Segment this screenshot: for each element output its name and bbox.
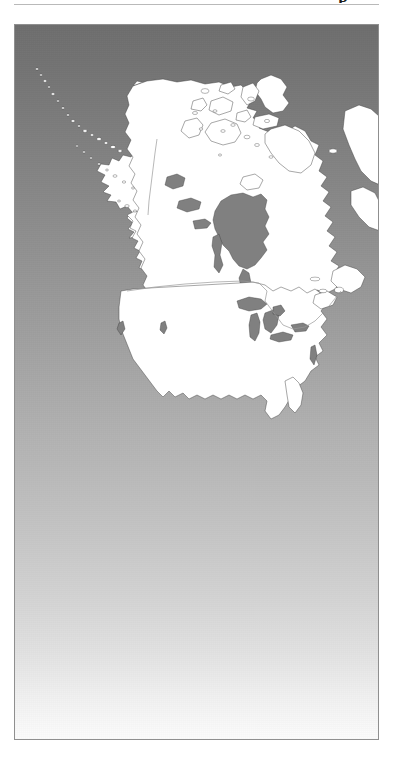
region-contiguous-united-states <box>117 282 327 419</box>
header-rule <box>14 4 386 5</box>
clipped-caption-glyph: p <box>336 0 350 3</box>
figure-frame <box>14 24 379 740</box>
page-right-margin <box>379 0 393 759</box>
page-bottom-margin <box>0 740 393 759</box>
scanned-page: p <box>0 0 393 759</box>
north-america-map-graphic <box>15 25 379 740</box>
region-canada <box>125 79 341 301</box>
page-left-margin <box>0 0 14 759</box>
region-greenland <box>343 105 379 231</box>
